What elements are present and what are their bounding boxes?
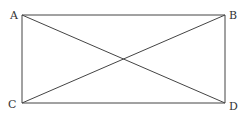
- label-d: D: [229, 100, 238, 113]
- rectangle-diagram: A B C D: [0, 0, 245, 122]
- label-b: B: [229, 9, 237, 22]
- diagram-canvas: A B C D: [0, 0, 245, 122]
- label-a: A: [9, 9, 19, 22]
- label-c: C: [8, 98, 16, 111]
